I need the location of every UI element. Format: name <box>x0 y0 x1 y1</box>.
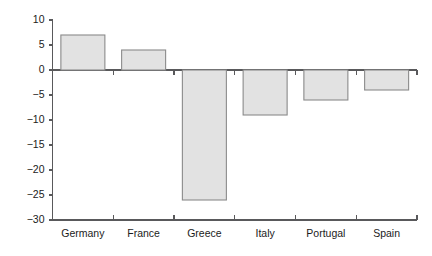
y-axis-tick-label: −20 <box>27 163 45 175</box>
bar <box>122 50 166 70</box>
bar <box>365 70 409 90</box>
x-axis-category-label: Greece <box>187 227 222 239</box>
x-axis-category-label: Italy <box>255 227 275 239</box>
y-axis-tick-marks <box>49 20 53 220</box>
x-axis-tick-labels: GermanyFranceGreeceItalyPortugalSpain <box>61 227 400 239</box>
bar-chart: 1050−5−10−15−20−25−30 GermanyFranceGreec… <box>0 0 432 256</box>
bar <box>61 35 105 70</box>
x-axis-category-label: Spain <box>373 227 400 239</box>
y-axis-tick-label: 10 <box>33 13 45 25</box>
y-axis: 1050−5−10−15−20−25−30 <box>27 13 53 225</box>
bar <box>243 70 287 115</box>
zero-reference-line-group <box>53 70 418 75</box>
bar <box>304 70 348 100</box>
y-axis-tick-label: −15 <box>27 138 45 150</box>
y-axis-tick-label: −30 <box>27 213 45 225</box>
x-axis-category-label: Germany <box>61 227 105 239</box>
bars-group <box>61 35 409 200</box>
y-axis-tick-label: −25 <box>27 188 45 200</box>
chart-canvas: 1050−5−10−15−20−25−30 GermanyFranceGreec… <box>0 0 432 256</box>
y-axis-tick-label: 0 <box>39 63 45 75</box>
x-axis-category-label: Portugal <box>306 227 345 239</box>
y-axis-tick-label: −5 <box>33 88 45 100</box>
x-axis-tick-marks <box>113 215 417 220</box>
x-axis-category-label: France <box>127 227 160 239</box>
y-axis-tick-label: 5 <box>39 38 45 50</box>
bar <box>182 70 226 200</box>
y-axis-tick-labels: 1050−5−10−15−20−25−30 <box>27 13 45 225</box>
y-axis-tick-label: −10 <box>27 113 45 125</box>
x-axis: GermanyFranceGreeceItalyPortugalSpain <box>53 215 418 239</box>
